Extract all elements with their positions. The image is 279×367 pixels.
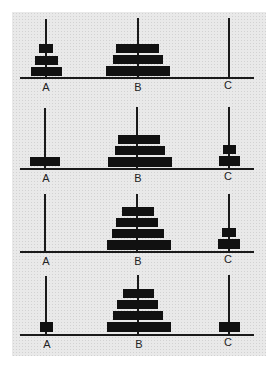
peg-label-c: C — [218, 336, 238, 348]
disk-b-2 — [115, 146, 165, 155]
disk-c-1 — [219, 156, 240, 166]
disk-a-1 — [40, 322, 53, 332]
disk-c-2 — [222, 228, 236, 237]
disk-b-4 — [123, 289, 154, 298]
peg-label-a: A — [37, 338, 57, 350]
disk-c-1 — [219, 322, 240, 332]
peg-label-b: B — [129, 338, 149, 350]
disk-c-2 — [223, 145, 236, 154]
peg-c — [228, 18, 230, 78]
peg-label-b: B — [128, 172, 148, 184]
peg-label-b: B — [128, 255, 148, 267]
disk-c-1 — [218, 239, 240, 249]
disk-a-2 — [35, 56, 58, 65]
peg-label-c: C — [218, 170, 238, 182]
peg-label-a: A — [36, 81, 56, 93]
disk-b-1 — [108, 157, 172, 167]
disk-b-3 — [118, 135, 160, 144]
disk-a-1 — [30, 157, 60, 166]
disk-b-2 — [113, 55, 163, 64]
peg-label-c: C — [218, 253, 238, 265]
disk-b-2 — [113, 311, 163, 320]
disk-a-3 — [39, 44, 53, 53]
disk-b-1 — [107, 322, 171, 332]
peg-label-b: B — [128, 81, 148, 93]
disk-b-4 — [122, 207, 154, 216]
peg-a — [44, 194, 46, 252]
disk-b-3 — [117, 300, 158, 309]
peg-label-c: C — [218, 79, 238, 91]
disk-b-3 — [116, 218, 158, 227]
disk-b-3 — [116, 44, 159, 53]
disk-b-2 — [112, 229, 164, 238]
disk-b-1 — [107, 240, 171, 250]
disk-b-1 — [106, 66, 170, 76]
peg-label-a: A — [36, 172, 56, 184]
peg-label-a: A — [36, 255, 56, 267]
disk-a-1 — [31, 67, 62, 76]
